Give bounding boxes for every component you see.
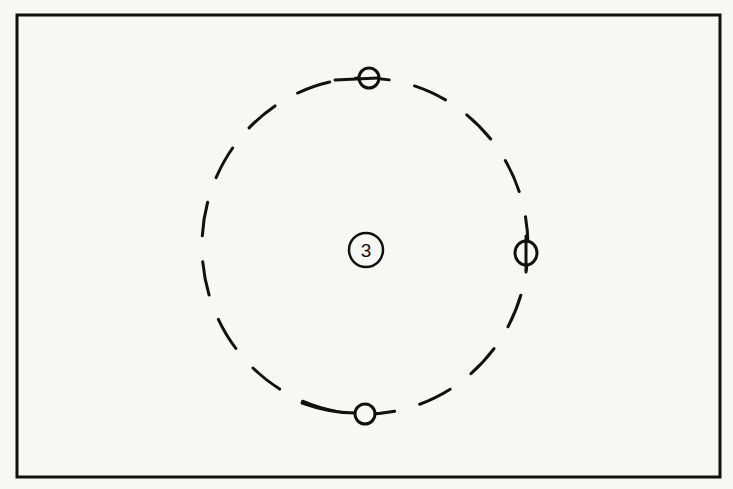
diagram-canvas: 3 [0,0,733,489]
bottom-marker-icon [302,403,375,424]
center-node: 3 [349,233,383,267]
right-marker-icon [515,236,537,272]
top-marker-icon [335,68,379,88]
center-label: 3 [361,240,372,261]
